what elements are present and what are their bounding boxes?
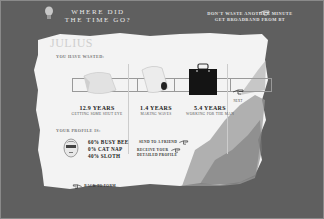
lightbulb-icon: [44, 6, 54, 20]
pointing-hand-icon[interactable]: [258, 10, 270, 16]
trait: 60% BUSY BEE: [88, 139, 129, 146]
pointing-hand-left-icon: [72, 184, 83, 189]
pointing-hand-icon: [232, 89, 244, 95]
item-description: WORKING FOR THE MAN: [180, 112, 240, 116]
pointing-hand-icon: [170, 148, 181, 153]
trait: 40% SLOTH: [88, 153, 129, 160]
pillow-icon: [80, 68, 118, 96]
title-line-2: THE TIME GO?: [63, 16, 133, 24]
back-to-form-label: BACK TO FORM: [84, 184, 116, 188]
briefcase-icon: [186, 62, 220, 98]
avatar: [62, 136, 80, 158]
wasted-item: 1.4 YEARS MAKING WAVES: [128, 105, 184, 116]
next-button[interactable]: NEXT: [232, 81, 244, 103]
profile-heading: YOUR PROFILE IS:: [56, 128, 101, 133]
promo-line-2: GET BROADBAND FROM BT: [190, 17, 310, 23]
title-line-1: WHERE DID: [63, 8, 133, 16]
item-description: GETTING SOME SHUT EYE: [67, 112, 127, 116]
user-name: JULIUS: [50, 36, 93, 51]
receive-profile-line-1: RECEIVE YOUR: [137, 148, 168, 152]
send-to-friend-link[interactable]: SEND TO A FRIEND: [139, 140, 189, 145]
item-years: 12.9 YEARS: [67, 105, 127, 111]
profile-traits: 60% BUSY BEE 0% CAT NAP 40% SLOTH: [88, 139, 129, 160]
pointing-hand-icon: [178, 140, 189, 145]
trait: 0% CAT NAP: [88, 146, 129, 153]
item-description: MAKING WAVES: [128, 112, 184, 116]
broadband-promo-link[interactable]: DON'T WASTE ANOTHER MINUTE GET BROADBAND…: [190, 11, 310, 23]
next-label: NEXT: [232, 99, 244, 103]
receive-profile-line-2: DETAILED PROFILE: [137, 153, 181, 158]
send-to-friend-label: SEND TO A FRIEND: [139, 140, 177, 144]
back-to-form-link[interactable]: BACK TO FORM: [72, 184, 116, 189]
wasted-label: YOU HAVE WASTED:: [56, 54, 104, 59]
wasted-item: 5.4 YEARS WORKING FOR THE MAN: [180, 105, 240, 116]
site-title: WHERE DID THE TIME GO?: [63, 8, 133, 24]
wasted-item: 12.9 YEARS GETTING SOME SHUT EYE: [67, 105, 127, 116]
item-years: 1.4 YEARS: [128, 105, 184, 111]
receive-profile-link[interactable]: RECEIVE YOUR DETAILED PROFILE: [137, 148, 181, 158]
item-years: 5.4 YEARS: [180, 105, 240, 111]
toilet-roll-icon: [138, 62, 172, 98]
